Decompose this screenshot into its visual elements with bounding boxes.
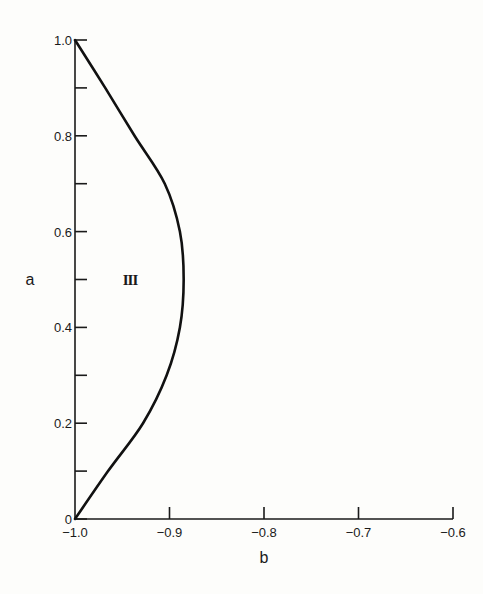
chart: 00.20.40.60.81.0−1.0−0.9−0.8−0.7−0.6 b a… xyxy=(0,0,483,594)
x-tick-label: −1.0 xyxy=(62,525,88,540)
x-tick-label: −0.6 xyxy=(440,525,466,540)
y-axis-title: a xyxy=(26,271,35,288)
x-tick-label: −0.7 xyxy=(346,525,372,540)
y-tick-label: 0.8 xyxy=(54,129,72,144)
y-tick-label: 1.0 xyxy=(54,33,72,48)
x-tick-label: −0.8 xyxy=(251,525,277,540)
y-tick-label: 0.4 xyxy=(54,320,72,335)
y-tick-label: 0.6 xyxy=(54,225,72,240)
region-label-iii: III xyxy=(123,272,139,288)
y-tick-label: 0.2 xyxy=(54,416,72,431)
tick-labels: 00.20.40.60.81.0−1.0−0.9−0.8−0.7−0.6 xyxy=(54,33,466,540)
x-tick-label: −0.9 xyxy=(157,525,183,540)
x-axis-title: b xyxy=(260,549,269,566)
